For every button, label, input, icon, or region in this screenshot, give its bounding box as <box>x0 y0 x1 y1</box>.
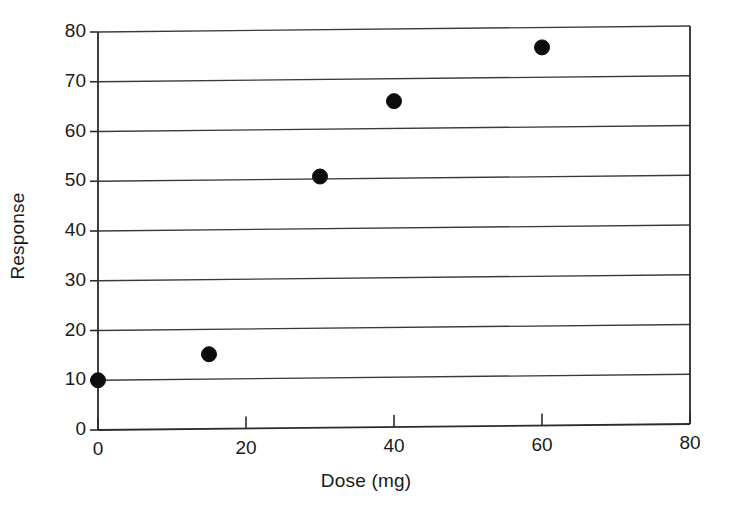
x-tick-label: 0 <box>76 438 120 460</box>
y-tick-label: 40 <box>42 219 86 241</box>
data-point <box>535 40 550 55</box>
y-tick-label: 30 <box>42 269 86 291</box>
data-point <box>202 347 217 362</box>
y-tick-label: 50 <box>42 169 86 191</box>
y-tick-label: 80 <box>42 20 86 42</box>
y-tick-label: 10 <box>42 368 86 390</box>
x-axis-title: Dose (mg) <box>0 470 732 492</box>
x-tick-label: 80 <box>668 432 712 454</box>
x-tick-label: 40 <box>372 435 416 457</box>
data-point <box>387 94 402 109</box>
data-point <box>91 373 106 388</box>
y-tick-label: 60 <box>42 120 86 142</box>
x-tick-label: 20 <box>224 437 268 459</box>
x-tick-label: 60 <box>520 434 564 456</box>
gridline <box>98 225 690 231</box>
gridline <box>98 76 690 82</box>
gridline <box>98 374 690 380</box>
y-tick-label: 20 <box>42 319 86 341</box>
data-point <box>313 169 328 184</box>
data-point-group <box>91 40 550 388</box>
gridline <box>98 175 690 181</box>
gridline-group <box>98 26 690 380</box>
gridline <box>98 275 690 281</box>
gridline <box>98 26 690 32</box>
y-axis-title: Response <box>7 156 29 316</box>
y-tick-mark-group <box>90 32 98 430</box>
chart-figure: 01020304050607080 020406080 Response Dos… <box>0 0 732 523</box>
gridline <box>98 126 690 132</box>
y-tick-label: 0 <box>42 418 86 440</box>
gridline <box>98 325 690 331</box>
y-tick-label: 70 <box>42 70 86 92</box>
